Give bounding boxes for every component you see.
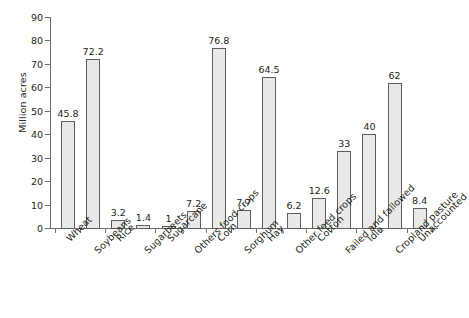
y-tick-label: 60: [1, 82, 43, 93]
bar-value-label: 62: [389, 70, 401, 81]
bar-value-label: 8.4: [412, 195, 427, 206]
x-tick-mark: [55, 229, 56, 233]
y-tick-label: 40: [1, 129, 43, 140]
y-tick-label: 80: [1, 35, 43, 46]
y-tick-mark: [45, 111, 50, 112]
y-tick-mark: [45, 228, 50, 229]
bar: [212, 48, 226, 229]
bar-value-label: 33: [338, 138, 350, 149]
y-tick-mark: [45, 134, 50, 135]
bar: [287, 213, 301, 229]
y-tick-mark: [45, 181, 50, 182]
y-tick-mark: [45, 158, 50, 159]
bar-value-label: 1.4: [136, 212, 151, 223]
bar-value-label: 72.2: [83, 46, 104, 57]
bar: [86, 59, 100, 229]
bar-value-label: 76.8: [208, 35, 229, 46]
bar-value-label: 64.5: [258, 64, 279, 75]
y-tick-label: 20: [1, 176, 43, 187]
bar-value-label: 45.8: [58, 108, 79, 119]
bar-value-label: 40: [363, 121, 375, 132]
bar: [136, 225, 150, 229]
bar-value-label: 6.2: [287, 200, 302, 211]
y-axis-line: [50, 17, 51, 229]
y-tick-label: 0: [1, 223, 43, 234]
y-tick-mark: [45, 205, 50, 206]
y-tick-mark: [45, 87, 50, 88]
y-tick-label: 30: [1, 152, 43, 163]
y-tick-label: 70: [1, 58, 43, 69]
y-tick-label: 10: [1, 199, 43, 210]
y-tick-mark: [45, 40, 50, 41]
bar-value-label: 12.6: [309, 185, 330, 196]
y-tick-mark: [45, 17, 50, 18]
y-tick-mark: [45, 64, 50, 65]
bar: [61, 121, 75, 229]
bar: [262, 77, 276, 229]
y-tick-label: 50: [1, 105, 43, 116]
y-tick-label: 90: [1, 12, 43, 23]
